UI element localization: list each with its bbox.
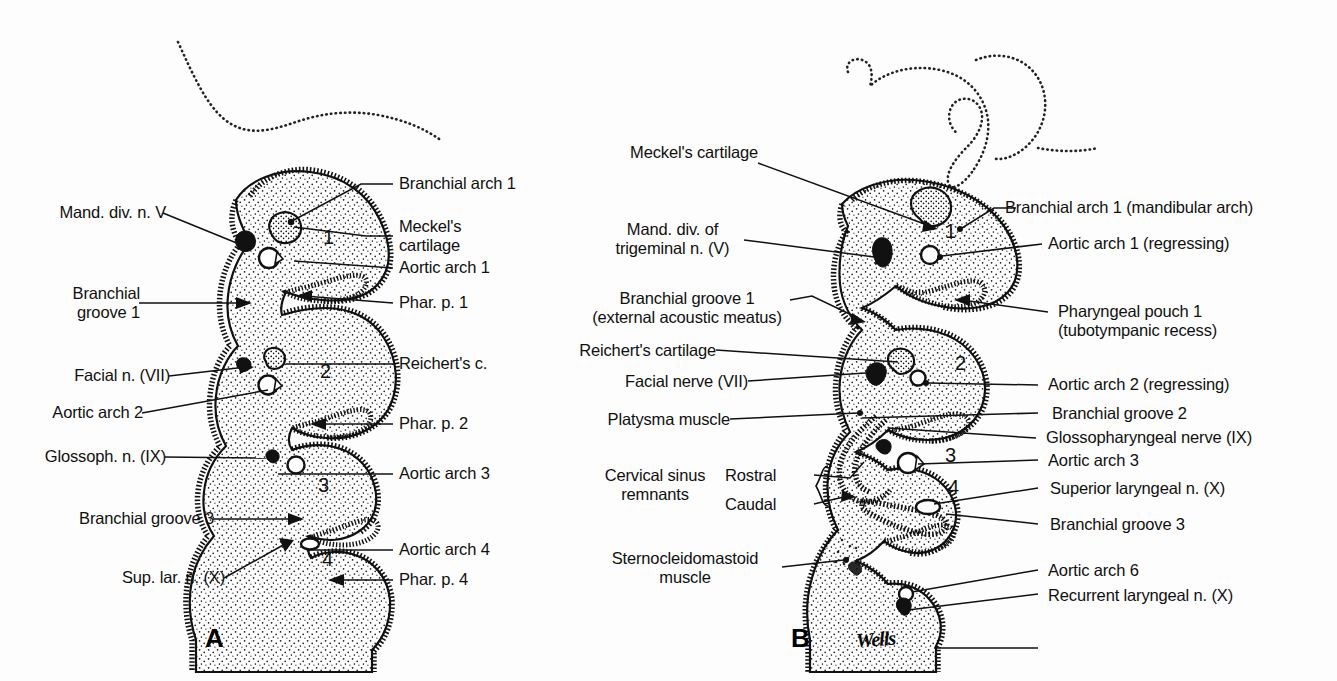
label-b-branchial-groove-1: Branchial groove 1 (external acoustic me…	[583, 289, 791, 327]
label-a-branchial-groove-3: Branchial groove 3	[5, 509, 214, 528]
label-a-facial-n-vii: Facial n. (VII)	[10, 366, 170, 385]
label-b-recurrent-laryngeal-n-x: Recurrent laryngeal n. (X)	[1048, 586, 1233, 605]
label-a-mand-div-n-v: Mand. div. n. V	[10, 203, 166, 222]
label-a-aortic-arch-2: Aortic arch 2	[10, 403, 143, 422]
label-a-branchial-groove-1: Branchial groove 1	[10, 284, 140, 322]
panel-b-head-outline	[847, 56, 1098, 187]
panel-b-arch-number-4: 4	[948, 476, 959, 498]
figure-root: 1 2 3 4	[0, 0, 1337, 681]
label-a-aortic-arch-3: Aortic arch 3	[399, 464, 490, 483]
panel-a-arch-number-3: 3	[318, 474, 329, 496]
artist-signature: Wells	[855, 627, 896, 653]
label-b-superior-laryngeal-n-x: Superior laryngeal n. (X)	[1050, 479, 1225, 498]
panel-b-arch-number-2: 2	[955, 352, 966, 374]
label-b-aortic-arch-2: Aortic arch 2 (regressing)	[1048, 375, 1229, 394]
label-b-meckels-cartilage: Meckel's cartilage	[580, 143, 758, 162]
label-a-reicherts-c: Reichert's c.	[399, 354, 487, 373]
label-a-phar-p-4: Phar. p. 4	[399, 570, 468, 589]
label-b-glossopharyngeal-nerve-ix: Glossopharyngeal nerve (IX)	[1046, 428, 1252, 447]
label-a-branchial-arch-1: Branchial arch 1	[399, 174, 516, 193]
label-b-mand-div-trigeminal: Mand. div. of trigeminal n. (V)	[600, 220, 745, 258]
label-b-facial-nerve-vii: Facial nerve (VII)	[540, 372, 748, 391]
label-b-aortic-arch-3: Aortic arch 3	[1048, 451, 1139, 470]
panel-a-letter: A	[205, 623, 224, 654]
panel-a-arch-number-1: 1	[323, 226, 334, 248]
panel-b-arch-number-1: 1	[945, 220, 956, 242]
panel-a-body: 1 2 3 4	[186, 169, 398, 672]
panel-b-body: 1 2 3 4	[805, 180, 1019, 672]
label-b-branchial-groove-2: Branchial groove 2	[1052, 404, 1187, 423]
label-b-reicherts-cartilage: Reichert's cartilage	[540, 341, 716, 360]
label-a-glossoph-n-ix: Glossoph. n. (IX)	[5, 447, 166, 466]
label-b-cervical-sinus-remnants: Cervical sinus remnants	[590, 466, 720, 504]
label-b-aortic-arch-1: Aortic arch 1 (regressing)	[1048, 234, 1229, 253]
label-b-platysma-muscle: Platysma muscle	[540, 410, 730, 429]
panel-a-arch-number-2: 2	[320, 360, 331, 382]
panel-b-letter: B	[791, 623, 810, 654]
label-a-phar-p-2: Phar. p. 2	[399, 414, 468, 433]
panel-b-arch-number-3: 3	[945, 444, 956, 466]
label-b-aortic-arch-6: Aortic arch 6	[1048, 561, 1139, 580]
label-b-sternocleidomastoid-muscle: Sternocleidomastoid muscle	[585, 549, 785, 587]
label-a-meckels-cartilage: Meckel's cartilage	[399, 217, 461, 255]
label-b-branchial-arch-1: Branchial arch 1 (mandibular arch)	[1005, 198, 1253, 217]
panel-a-arch-number-4: 4	[322, 548, 333, 570]
label-b-caudal: Caudal	[725, 495, 776, 514]
panel-a-head-outline	[178, 42, 442, 141]
label-a-aortic-arch-4: Aortic arch 4	[399, 540, 490, 559]
label-a-phar-p-1: Phar. p. 1	[399, 293, 468, 312]
label-b-rostral: Rostral	[725, 466, 776, 485]
label-a-sup-lar-n-x: Sup. lar. n. (X)	[60, 568, 225, 587]
label-b-pharyngeal-pouch-1: Pharyngeal pouch 1 (tubotympanic recess)	[1058, 302, 1217, 340]
label-b-branchial-groove-3: Branchial groove 3	[1050, 515, 1185, 534]
label-a-aortic-arch-1: Aortic arch 1	[399, 258, 490, 277]
